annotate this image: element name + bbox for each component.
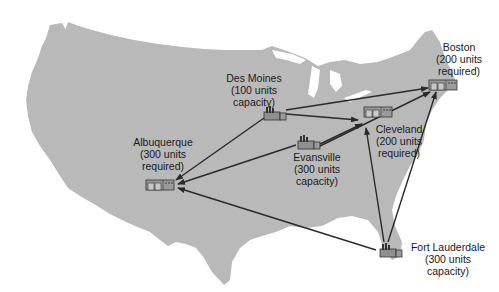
node-units: (300 units [398,253,498,265]
label-fort-lauderdale: Fort Lauderdale (300 units capacity) [398,241,498,277]
node-units: (200 units [364,135,434,147]
node-name: Des Moines [214,72,294,84]
node-role: required) [123,160,203,172]
label-des-moines: Des Moines (100 units capacity) [214,72,294,108]
node-name: Evansville [282,151,352,163]
node-units: (300 units [282,163,352,175]
node-role: capacity) [214,96,294,108]
node-units: (200 units [427,53,491,65]
node-role: capacity) [282,175,352,187]
node-name: Cleveland [364,123,434,135]
label-cleveland: Cleveland (200 units required) [364,123,434,159]
warehouse-icon-albuquerque [146,180,174,190]
node-units: (100 units [214,84,294,96]
transportation-network-diagram: Des Moines (100 units capacity) Evansvil… [0,0,499,292]
node-role: capacity) [398,265,498,277]
node-name: Fort Lauderdale [398,241,498,253]
warehouse-icon-boston [429,80,457,90]
node-role: required) [427,65,491,77]
label-albuquerque: Albuquerque (300 units required) [123,136,203,172]
node-name: Boston [427,41,491,53]
warehouse-icon-cleveland [364,107,392,117]
node-units: (300 units [123,148,203,160]
node-role: required) [364,147,434,159]
label-boston: Boston (200 units required) [427,41,491,77]
node-name: Albuquerque [123,136,203,148]
label-evansville: Evansville (300 units capacity) [282,151,352,187]
